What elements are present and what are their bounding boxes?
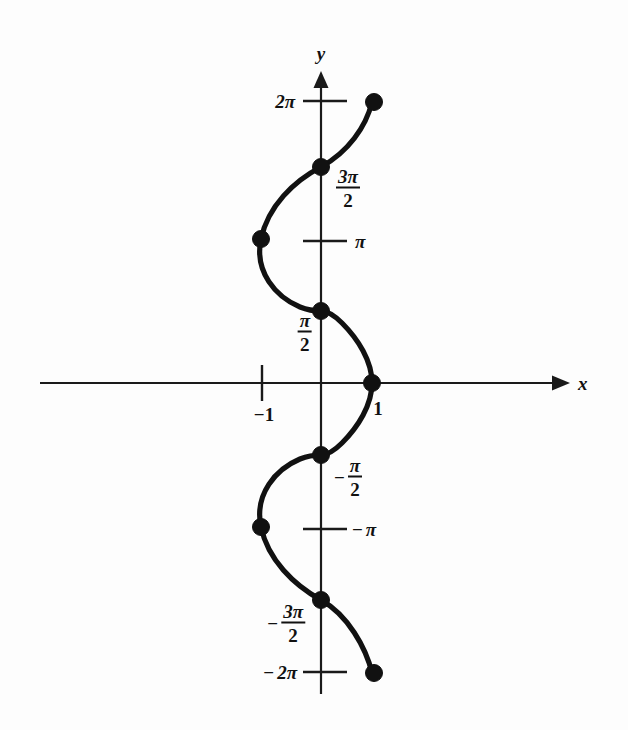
point-y-neg-three-pi-halves (313, 592, 330, 609)
pi-text: π (355, 231, 365, 252)
point-left-extremum-neg-pi (253, 519, 270, 536)
y-tick-label-three-pi-halves: 3π 2 (336, 167, 360, 210)
minus-sign-two-pi: − (263, 663, 274, 682)
minus-pi-halves-group: − π 2 (334, 456, 362, 499)
graph-canvas (0, 0, 628, 730)
y-tick-label-two-pi: 2π (275, 92, 295, 111)
minus-pi-halves-denominator: 2 (348, 478, 362, 499)
x-axis-arrowhead (552, 376, 570, 391)
minus-sign-pi-halves: − (334, 468, 345, 487)
x-tick-label-one: 1 (373, 399, 383, 418)
point-y-three-pi-halves (313, 159, 330, 176)
point-lower-endpoint (366, 665, 383, 682)
y-axis-label: y (317, 44, 325, 63)
point-y-neg-pi-halves (313, 447, 330, 464)
pi-halves-denominator: 2 (298, 333, 312, 354)
minus-pi-halves-fraction: π 2 (348, 456, 362, 499)
point-upper-endpoint (366, 94, 383, 111)
curve-marked-points (253, 94, 383, 682)
minus-sign-pi: − (352, 520, 363, 539)
minus-three-pi-halves-fraction: 3π 2 (281, 602, 305, 645)
minus-three-pi-halves-denominator: 2 (286, 624, 300, 645)
y-tick-label-minus-three-pi-halves: − 3π 2 (267, 602, 305, 645)
minus-three-pi-halves-numerator: 3π (281, 602, 305, 624)
minus-three-pi-halves-group: − 3π 2 (267, 602, 305, 645)
point-left-extremum-pi (253, 231, 270, 248)
y-tick-label-minus-pi-halves: − π 2 (334, 456, 362, 499)
three-pi-halves-denominator: 2 (341, 189, 355, 210)
y-tick-label-minus-two-pi: − 2π (263, 663, 297, 682)
minus-two-pi-group: − 2π (263, 663, 297, 682)
x-axis-label: x (578, 374, 588, 393)
point-y-pi-halves (313, 303, 330, 320)
three-pi-halves-numerator: 3π (336, 167, 360, 189)
minus-pi-text: π (366, 520, 376, 539)
pi-halves-numerator: π (298, 311, 312, 333)
minus-pi-halves-numerator: π (348, 456, 362, 478)
x-tick-label-minus-one: −1 (254, 405, 274, 424)
y-tick-label-pi: π (355, 232, 365, 251)
y-tick-label-minus-pi: − π (352, 520, 376, 539)
x-axis-group (40, 365, 570, 401)
point-x-intercept-one (364, 375, 381, 392)
minus-two-pi-text: 2π (277, 663, 297, 682)
inverse-sine-graph-figure: y x 2π 3π 2 π π 2 −1 1 − π 2 (0, 0, 628, 730)
two-pi-text: 2π (275, 91, 295, 112)
three-pi-halves-fraction: 3π 2 (336, 167, 360, 210)
minus-sign-three-pi-halves: − (267, 614, 278, 633)
y-tick-label-pi-halves: π 2 (298, 311, 312, 354)
pi-halves-fraction: π 2 (298, 311, 312, 354)
minus-pi-group: − π (352, 520, 376, 539)
y-axis-arrowhead (314, 71, 329, 88)
